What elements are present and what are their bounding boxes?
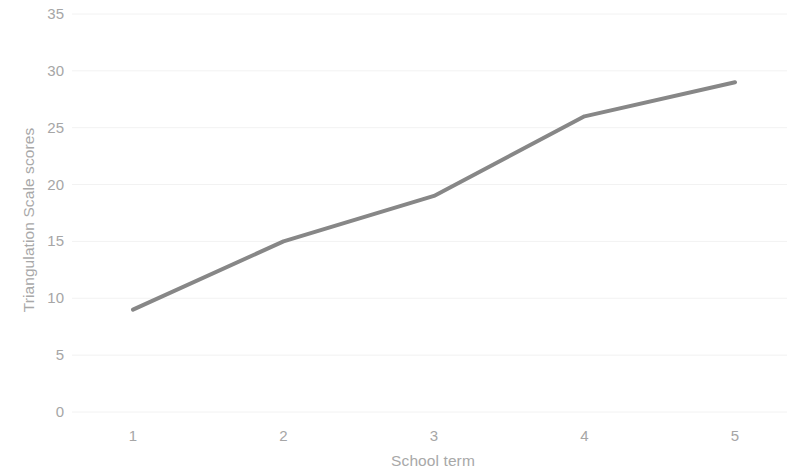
x-axis-tick-label: 5 bbox=[715, 428, 755, 443]
line-chart: 05101520253035 12345 Triangulation Scale… bbox=[0, 0, 795, 476]
y-axis-tick-label: 0 bbox=[14, 404, 64, 419]
y-axis-title: Triangulation Scale scores bbox=[20, 100, 38, 340]
y-axis-tick-label: 35 bbox=[14, 6, 64, 21]
x-axis-tick-label: 4 bbox=[565, 428, 605, 443]
y-axis-tick-label: 5 bbox=[14, 347, 64, 362]
x-axis-title: School term bbox=[333, 452, 533, 470]
gridlines-group bbox=[72, 14, 787, 412]
x-axis-tick-label: 1 bbox=[113, 428, 153, 443]
series-group bbox=[133, 82, 735, 309]
y-axis-tick-label: 30 bbox=[14, 63, 64, 78]
data-series-line bbox=[133, 82, 735, 309]
x-axis-tick-label: 3 bbox=[414, 428, 454, 443]
x-axis-tick-label: 2 bbox=[264, 428, 304, 443]
chart-plot-area bbox=[0, 0, 795, 476]
